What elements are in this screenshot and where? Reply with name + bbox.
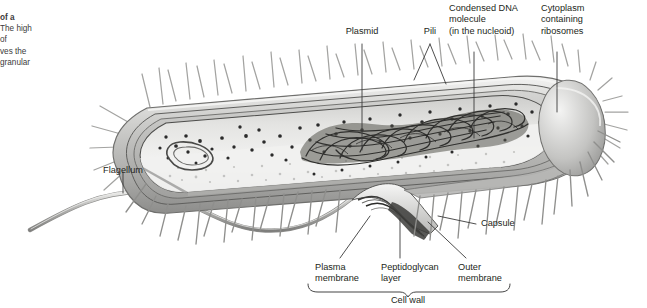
label-peptidoglycan-layer: Peptidoglycan layer xyxy=(381,262,455,285)
leader-pili-2 xyxy=(430,44,446,84)
leader-plasma-membrane xyxy=(340,216,370,258)
label-flagellum: Flagellum xyxy=(88,165,158,176)
caption-paragraph: of aThe highofves thegranular xyxy=(0,12,52,68)
label-cytoplasm: Cytoplasm containing ribosomes xyxy=(541,3,619,37)
leader-outer-membrane xyxy=(428,222,466,258)
label-capsule: Capsule xyxy=(481,218,541,229)
label-condensed-dna: Condensed DNA molecule (in the nucleoid) xyxy=(449,3,544,37)
label-pili: Pili xyxy=(408,26,452,37)
leader-pili xyxy=(414,44,430,80)
label-cell-wall: Cell wall xyxy=(379,295,437,306)
label-plasmid: Plasmid xyxy=(333,26,391,37)
label-plasma-membrane: Plasma membrane xyxy=(315,262,375,285)
label-outer-membrane: Outer membrane xyxy=(458,262,520,285)
